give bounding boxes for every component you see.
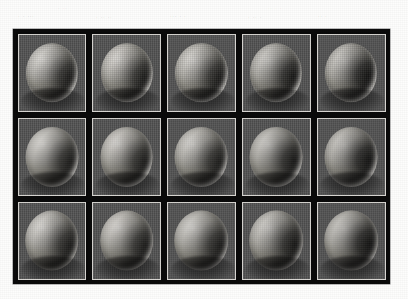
caption-ghost-line-6: . .. (58, 3, 67, 11)
sphere-tile-r3c3 (166, 200, 238, 281)
sphere-contact-shadow (246, 88, 310, 112)
sphere-tile-r1c2 (91, 32, 163, 113)
sphere-tile-r1c4 (240, 32, 312, 113)
sphere-tile-r3c1 (16, 200, 88, 281)
sphere-tile-r1c5 (315, 32, 387, 113)
render-canvas (92, 34, 161, 112)
caption-ghost-line-5: .. . (318, 11, 327, 19)
render-canvas (317, 118, 386, 196)
sphere-contact-shadow (320, 256, 384, 280)
render-canvas (242, 202, 311, 280)
render-canvas (92, 118, 161, 196)
sphere-tile-r2c3 (166, 116, 238, 197)
sphere-contact-shadow (171, 88, 235, 112)
caption-ghost-line-3: ... . . (170, 11, 186, 19)
sphere-tile-r2c1 (16, 116, 88, 197)
caption-artifact-band: . .. .. . . . . ... . .. .. ... . . . ..… (0, 0, 408, 26)
sphere-contact-shadow (21, 172, 85, 196)
sphere-contact-shadow (21, 88, 85, 112)
sphere-contact-shadow (96, 172, 160, 196)
render-canvas (167, 118, 236, 196)
sphere-contact-shadow (96, 88, 160, 112)
sphere-contact-shadow (171, 172, 235, 196)
sphere-tile-r2c2 (91, 116, 163, 197)
render-canvas (18, 118, 87, 196)
sphere-contact-shadow (320, 172, 384, 196)
render-canvas (92, 202, 161, 280)
sphere-tile-r2c5 (315, 116, 387, 197)
caption-ghost-line-4: . .. . (248, 12, 262, 20)
caption-ghost-line-7: .. . . (268, 3, 282, 11)
sphere-grid (16, 32, 387, 281)
sphere-contact-shadow (171, 256, 235, 280)
render-canvas (242, 34, 311, 112)
sphere-tile-r1c3 (166, 32, 238, 113)
render-canvas (317, 34, 386, 112)
render-canvas (18, 34, 87, 112)
sphere-tile-r3c4 (240, 200, 312, 281)
render-canvas (242, 118, 311, 196)
sphere-tile-r1c1 (16, 32, 88, 113)
render-canvas (317, 202, 386, 280)
render-canvas (167, 202, 236, 280)
sphere-contact-shadow (21, 256, 85, 280)
sphere-contact-shadow (96, 256, 160, 280)
caption-ghost-line-2: . .. .. (96, 12, 112, 20)
caption-ghost-line-1: . . ... (18, 11, 34, 19)
figure-frame (13, 29, 390, 284)
sphere-tile-r3c2 (91, 200, 163, 281)
render-canvas (18, 202, 87, 280)
sphere-contact-shadow (246, 172, 310, 196)
scanned-page: . .. .. . . . . ... . .. .. ... . . . ..… (0, 0, 408, 299)
render-canvas (167, 34, 236, 112)
sphere-tile-r2c4 (240, 116, 312, 197)
sphere-tile-r3c5 (315, 200, 387, 281)
sphere-contact-shadow (320, 88, 384, 112)
sphere-contact-shadow (246, 256, 310, 280)
